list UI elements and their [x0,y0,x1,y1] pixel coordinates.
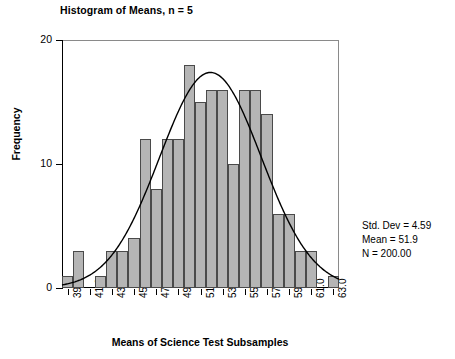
x-tick-mark [289,289,290,295]
x-tick-mark [267,289,268,295]
stat-std-dev: Std. Dev = 4.59 [362,219,431,233]
x-tick-mark [201,289,202,295]
x-tick-mark [134,289,135,295]
x-axis-label: Means of Science Test Subsamples [60,336,340,348]
x-tick-mark [333,289,334,295]
x-tick-mark [68,289,69,295]
y-tick-label: 10 [0,157,62,169]
x-tick-mark [311,289,312,295]
x-tick-label: 63.0 [337,279,348,298]
x-tick-mark [223,289,224,295]
x-tick-mark [112,289,113,295]
y-axis-label: Frequency [10,74,22,194]
y-tick-label: 0 [0,281,62,293]
x-tick-mark [156,289,157,295]
chart-title: Histogram of Means, n = 5 [60,4,193,16]
x-tick-mark [90,289,91,295]
x-tick-mark [178,289,179,295]
stats-annotation: Std. Dev = 4.59 Mean = 51.9 N = 200.00 [362,219,431,261]
x-tick-mark [245,289,246,295]
histogram-figure: Histogram of Means, n = 5 Frequency 0102… [0,0,455,359]
normal-curve-overlay [62,40,339,288]
y-tick-label: 20 [0,33,62,45]
stat-mean: Mean = 51.9 [362,233,431,247]
stat-n: N = 200.00 [362,247,431,261]
